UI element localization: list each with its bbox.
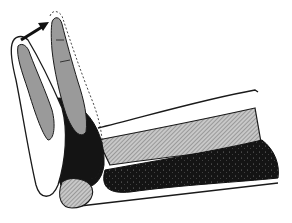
foot-illustration — [0, 0, 292, 223]
arrow-icon — [21, 22, 49, 40]
anatomical-figure — [0, 0, 292, 223]
calcaneus — [60, 179, 93, 208]
